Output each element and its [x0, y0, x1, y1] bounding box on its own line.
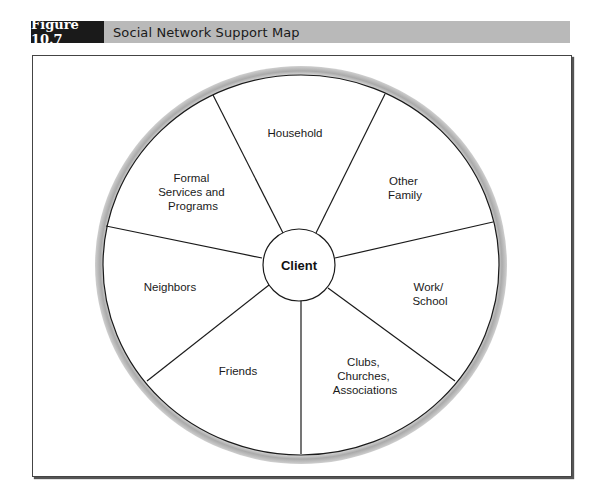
sector-label-household: Household: [268, 127, 323, 139]
client-label: Client: [281, 258, 318, 273]
social-network-map: Client Household Other Family Work/ Scho…: [0, 0, 601, 504]
sector-label-friends: Friends: [219, 365, 258, 377]
sector-label-neighbors: Neighbors: [144, 281, 197, 293]
